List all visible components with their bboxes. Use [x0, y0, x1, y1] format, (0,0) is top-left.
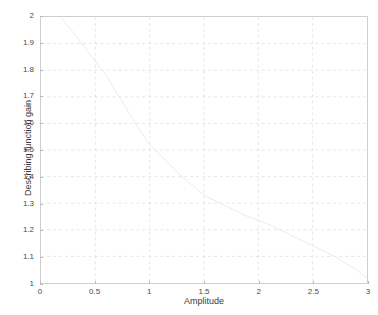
y-tick-label: 2	[0, 12, 34, 20]
y-tick-label: 1	[0, 280, 34, 288]
x-tick-label: 1.5	[184, 288, 224, 296]
y-tick-mark	[40, 150, 43, 151]
y-tick-mark	[40, 96, 43, 97]
x-tick-mark	[95, 281, 96, 284]
y-tick-mark	[40, 43, 43, 44]
x-tick-mark	[259, 281, 260, 284]
x-tick-mark	[40, 281, 41, 284]
x-tick-label: 2.5	[293, 288, 333, 296]
x-tick-mark	[368, 281, 369, 284]
y-tick-mark	[40, 204, 43, 205]
figure-canvas: 11.11.21.31.41.51.61.71.81.92 00.511.522…	[0, 0, 378, 315]
y-tick-mark	[40, 16, 43, 17]
x-axis-title: Amplitude	[40, 296, 368, 306]
x-tick-label: 2	[239, 288, 279, 296]
data-series-line	[41, 17, 367, 283]
x-tick-mark	[313, 281, 314, 284]
y-tick-mark	[40, 123, 43, 124]
y-tick-label: 1.1	[0, 253, 34, 261]
y-tick-mark	[40, 177, 43, 178]
y-tick-label: 1.9	[0, 39, 34, 47]
x-tick-label: 3	[348, 288, 378, 296]
plot-area	[40, 16, 368, 284]
x-tick-mark	[149, 281, 150, 284]
y-tick-mark	[40, 230, 43, 231]
x-tick-label: 0.5	[75, 288, 115, 296]
y-tick-mark	[40, 284, 43, 285]
y-axis-title: Describing function gain	[23, 68, 33, 228]
y-tick-mark	[40, 70, 43, 71]
x-tick-label: 0	[20, 288, 60, 296]
x-tick-mark	[204, 281, 205, 284]
y-tick-mark	[40, 257, 43, 258]
x-tick-label: 1	[129, 288, 169, 296]
